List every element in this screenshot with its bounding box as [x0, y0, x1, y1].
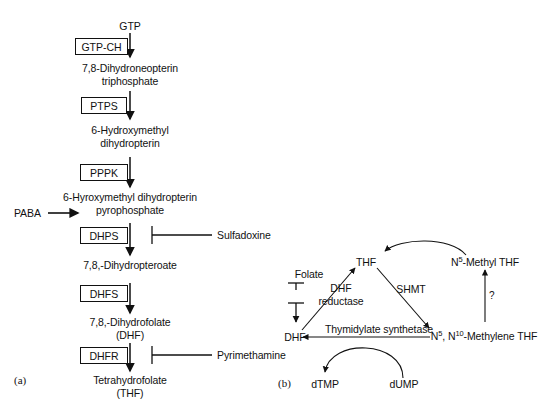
figure-root: GTP GTP-CH 7,8-Dihydroneopterin triphosp…: [0, 0, 554, 412]
enzyme-box-gtp-ch[interactable]: GTP-CH: [75, 38, 128, 55]
metabolite-dihydropteroate: 7,8,-Dihydropteroate: [83, 259, 177, 272]
node-dump: dUMP: [390, 378, 419, 391]
node-dtmp: dTMP: [311, 378, 339, 391]
enzyme-box-dhfs[interactable]: DHFS: [80, 285, 128, 302]
panel-tag-b: (b): [278, 377, 291, 389]
arrow-thf-to-methylene-thf: [377, 268, 429, 328]
metabolite-thf-line2: (THF): [117, 387, 144, 399]
metabolite-dhnp-line2: triphosphate: [102, 75, 159, 87]
dhf-reductase-line2: reductase: [318, 295, 363, 307]
metabolite-dhf-line1: 7,8,-Dihydrofolate: [89, 316, 170, 328]
metabolite-tetrahydrofolate: Tetrahydrofolate (THF): [93, 374, 167, 400]
input-paba: PABA: [14, 207, 41, 220]
enzyme-box-pppk[interactable]: PPPK: [80, 164, 128, 181]
metabolite-dhf-line2: (DHF): [116, 329, 144, 341]
metabolite-gtp: GTP: [119, 20, 140, 33]
inhibitor-sulfadoxine: Sulfadoxine: [217, 229, 271, 242]
metabolite-dhnp-line1: 7,8-Dihydroneopterin: [82, 62, 178, 74]
metabolite-hmdp-line1: 6-Hydroxymethyl: [91, 124, 168, 136]
node-thf: THF: [356, 256, 376, 269]
dhf-reductase-line1: DHF: [330, 282, 351, 294]
metabolite-hmdp-line2: dihydropterin: [100, 137, 159, 149]
enzyme-label-thymidylate-synthetase: Thymidylate synthetase: [325, 323, 433, 336]
node-n5-n10-methylene-thf: N5, N10-Methylene THF: [431, 330, 538, 343]
node-n5-methyl-thf: N5-Methyl THF: [451, 256, 519, 269]
node-folate: Folate: [295, 268, 324, 281]
enzyme-label-dhf-reductase: DHF reductase: [318, 282, 363, 308]
enzyme-box-dhfr[interactable]: DHFR: [80, 347, 128, 364]
metabolite-hmdpp-line2: pyrophosphate: [96, 204, 164, 216]
panel-tag-a: (a): [14, 374, 26, 386]
metabolite-thf-line1: Tetrahydrofolate: [93, 374, 167, 386]
enzyme-label-shmt: SHMT: [396, 283, 425, 296]
arrow-methyl-thf-to-thf: [385, 241, 466, 255]
inhibitor-pyrimethamine: Pyrimethamine: [217, 349, 286, 362]
metabolite-hmdpp-line1: 6-Hyroxymethyl dihydropterin: [63, 191, 197, 203]
metabolite-hydroxymethyl-dihydropterin-pyrophosphate: 6-Hyroxymethyl dihydropterin pyrophospha…: [63, 191, 197, 217]
annotation-unknown-step: ?: [489, 290, 495, 301]
metabolite-hydroxymethyl-dihydropterin: 6-Hydroxymethyl dihydropterin: [91, 124, 168, 150]
enzyme-box-dhps[interactable]: DHPS: [80, 227, 128, 244]
enzyme-box-ptps[interactable]: PTPS: [81, 97, 127, 114]
arrow-dump-to-dtmp: [325, 348, 403, 378]
metabolite-dihydroneopterin-triphosphate: 7,8-Dihydroneopterin triphosphate: [82, 62, 178, 88]
metabolite-dihydrofolate: 7,8,-Dihydrofolate (DHF): [89, 316, 170, 342]
node-dhf: DHF: [284, 331, 305, 344]
